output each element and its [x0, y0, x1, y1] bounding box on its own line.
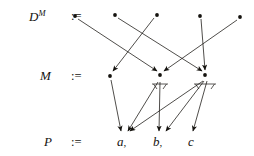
arrow-d3-to-m1 [113, 18, 154, 71]
term-b-punct: , [160, 136, 163, 148]
node-dot-m2 [158, 73, 162, 77]
term-c-text: c [188, 134, 194, 149]
brace-group [152, 84, 216, 89]
assign-symbol-dm: := [71, 9, 82, 24]
row-label-m: M [40, 68, 51, 84]
arrow-m2-to-p_a [128, 82, 158, 131]
diagram-figure: DM := M := P := a, b, c [0, 0, 254, 156]
row-label-dm: DM [29, 8, 46, 25]
assign-symbol-m: := [71, 69, 82, 84]
arrow-m3-to-p_c [193, 81, 207, 131]
node-group-middle-row [108, 73, 207, 78]
arrow-m2-to-p_b [159, 82, 160, 131]
edge-group-top-to-middle [78, 18, 237, 71]
node-dot-d3 [155, 13, 159, 17]
arrow-d1-to-m2 [78, 19, 157, 71]
assign-symbol-p: := [71, 135, 82, 150]
node-dot-d5 [238, 15, 242, 19]
node-dot-m3 [203, 73, 207, 77]
node-group-top-row [73, 13, 242, 19]
row-label-dm-base: D [29, 9, 39, 24]
node-dot-d2 [113, 13, 117, 17]
node-dot-d4 [198, 14, 202, 18]
row-label-dm-superscript: M [39, 8, 46, 18]
arrow-m3-to-p_a [130, 81, 203, 131]
edge-group-middle-to-bottom [111, 80, 207, 131]
arrow-d5-to-m2 [164, 20, 237, 71]
arrow-m1-to-p_a [111, 80, 121, 131]
arrow-d2-to-m3 [118, 18, 202, 71]
term-a: a, [117, 134, 126, 150]
term-a-punct: , [124, 136, 127, 148]
term-b: b, [153, 134, 162, 150]
row-label-p: P [44, 134, 52, 150]
term-c: c [188, 134, 194, 150]
node-dot-m1 [108, 74, 112, 78]
